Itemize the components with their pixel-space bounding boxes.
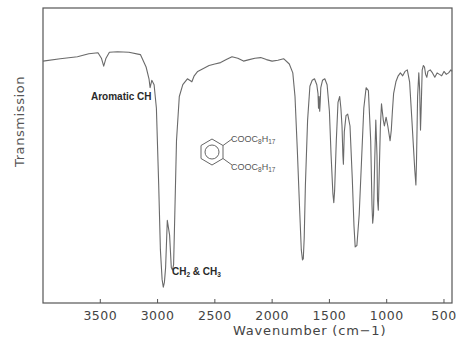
x-tick-label: 1000 xyxy=(370,308,404,323)
ir-spectrum-chart: 350030002500200015001000500 Wavenumber (… xyxy=(0,0,467,355)
x-tick-label: 1500 xyxy=(313,308,347,323)
x-tick-label: 2500 xyxy=(198,308,232,323)
annotation-aromatic-ch: Aromatic CH xyxy=(91,91,152,102)
x-tick-label: 3500 xyxy=(83,308,117,323)
benzene-ring-aromatic-circle xyxy=(205,145,219,159)
x-axis-label: Wavenumber (cm−1) xyxy=(233,323,386,338)
x-tick-label: 500 xyxy=(431,308,456,323)
annotation-ch2-ch3: CH2 & CH3 xyxy=(172,266,221,278)
plot-frame xyxy=(43,8,452,303)
chemical-structure-diagram: COOC8H17 COOC8H17 xyxy=(201,134,276,173)
x-tick-label: 3000 xyxy=(141,308,175,323)
ester-group-bottom: COOC8H17 xyxy=(231,162,276,173)
ester-group-top: COOC8H17 xyxy=(231,134,276,145)
benzene-ring-icon xyxy=(201,139,223,165)
x-tick-label: 2000 xyxy=(255,308,289,323)
y-axis-label: Transmission xyxy=(12,76,27,168)
x-axis-tick-labels: 350030002500200015001000500 xyxy=(83,308,456,323)
